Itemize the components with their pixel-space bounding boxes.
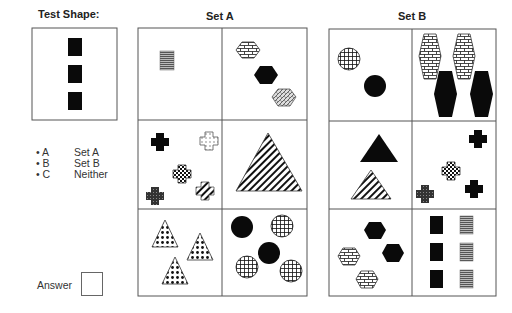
striped-triangle-icon	[351, 170, 391, 199]
solid-cross-icon	[469, 130, 487, 148]
striped-rectangle-icon	[160, 51, 174, 70]
solid-hexagon-icon	[470, 71, 493, 117]
grid-circle-icon	[338, 48, 360, 70]
dotted-triangle-icon	[162, 257, 188, 284]
grid-circle-icon	[280, 260, 302, 282]
solid-hexagon-icon	[382, 244, 404, 262]
diagonal-cross-icon	[196, 182, 214, 200]
brick-hexagon-icon	[419, 34, 441, 79]
brick-hexagon-icon	[338, 248, 360, 265]
puzzle-diagram	[0, 0, 512, 313]
solid-rectangle-icon	[68, 92, 82, 110]
test-shape-box	[32, 28, 117, 120]
stipple-cross-icon	[416, 185, 434, 203]
set-a-cell-5-triangles	[152, 220, 213, 284]
checkered-cross-icon	[442, 162, 460, 180]
brick-hexagon-icon	[236, 42, 260, 58]
solid-circle-icon	[258, 242, 280, 264]
dotted-triangle-icon	[187, 233, 213, 260]
striped-rectangle-icon	[460, 243, 473, 261]
set-b-cell-5-hexagons	[338, 222, 404, 288]
solid-rectangle-icon	[430, 243, 443, 261]
checkered-cross-icon	[173, 165, 191, 183]
set-a-cell-3-crosses	[146, 132, 218, 205]
solid-rectangle-icon	[68, 65, 82, 83]
dotted-cross-icon	[200, 132, 218, 150]
brick-hexagon-icon	[356, 271, 378, 288]
solid-rectangle-icon	[430, 270, 443, 288]
solid-hexagon-icon	[254, 66, 278, 84]
striped-rectangle-icon	[460, 216, 473, 234]
set-b-cell-6-rectangles	[430, 216, 473, 288]
solid-rectangle-icon	[430, 216, 443, 234]
set-a-cell-6-circles	[231, 215, 302, 282]
stipple-cross-icon	[146, 187, 164, 205]
solid-cross-icon	[465, 180, 483, 198]
set-a-cell-2-hexagons	[236, 42, 296, 106]
grid-circle-icon	[271, 215, 293, 237]
brick-hexagon-icon	[453, 34, 475, 79]
solid-hexagon-icon	[364, 222, 386, 239]
solid-cross-icon	[151, 133, 169, 151]
solid-circle-icon	[231, 216, 253, 238]
set-b-cell-2-hexagons	[419, 34, 493, 117]
dotted-triangle-icon	[152, 220, 178, 247]
solid-hexagon-icon	[434, 71, 457, 117]
grid-circle-icon	[236, 256, 258, 278]
striped-triangle-icon	[236, 133, 302, 191]
solid-circle-icon	[364, 75, 386, 97]
set-b-cell-4-crosses	[416, 130, 487, 203]
solid-triangle-icon	[360, 134, 398, 162]
solid-rectangle-icon	[68, 38, 82, 56]
striped-rectangle-icon	[460, 270, 473, 288]
woven-hexagon-icon	[272, 89, 296, 106]
